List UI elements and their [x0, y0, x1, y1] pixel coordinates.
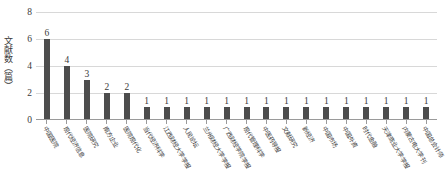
bar[interactable] [144, 107, 150, 121]
bar-value-label: 1 [184, 96, 189, 106]
y-axis-tick-2: 2 [27, 88, 32, 98]
category-slot: 江西财经大学学报 [157, 124, 177, 189]
bar-slot: 1 [376, 12, 396, 120]
y-axis-title: 文献数（篇） [1, 8, 15, 118]
category-slot: 文献研究 [276, 124, 296, 189]
category-slot: 广西财经学院学报 [217, 124, 237, 189]
bar-slot: 1 [356, 12, 376, 120]
bar-slot: 6 [37, 12, 57, 120]
bar[interactable] [363, 107, 369, 121]
bar-value-label: 1 [424, 96, 429, 106]
bar-value-label: 3 [85, 69, 90, 79]
y-axis-tick-labels: 02468 [14, 0, 34, 124]
y-axis-tick-8: 8 [27, 7, 32, 17]
bar[interactable] [244, 107, 250, 121]
category-label: 中国总会计师 [420, 125, 444, 159]
bar[interactable] [64, 66, 70, 120]
category-slot: 兰州财经大学学报 [197, 124, 217, 189]
bar-value-label: 1 [244, 96, 249, 106]
bar-slot: 1 [137, 12, 157, 120]
category-slot: 医院现代化 [117, 124, 137, 189]
category-slot: 内蒙古电大学刊 [396, 124, 416, 189]
bar-value-label: 4 [65, 55, 70, 65]
bar[interactable] [323, 107, 329, 121]
category-label: 新经济 [301, 125, 316, 144]
bar-value-label: 1 [164, 96, 169, 106]
x-axis-category-labels: 中国医院现代经济信息医院研究南方企业医院现代化当代经济科学江西财经大学学报人民论… [36, 124, 437, 189]
bar-value-label: 1 [304, 96, 309, 106]
bar-value-label: 6 [45, 28, 50, 38]
bar-slot: 1 [316, 12, 336, 120]
bar[interactable] [303, 107, 309, 121]
bar[interactable] [423, 107, 429, 121]
category-slot: 天津商业大学学报 [376, 124, 396, 189]
bar-slot: 1 [157, 12, 177, 120]
bar[interactable] [104, 93, 110, 120]
bar[interactable] [204, 107, 210, 121]
y-axis-tick-4: 4 [27, 61, 32, 71]
bar[interactable] [263, 107, 269, 121]
bar-slot: 1 [396, 12, 416, 120]
category-slot: 中国总会计师 [416, 124, 436, 189]
category-slot: 中国医院 [37, 124, 57, 189]
bar-value-label: 2 [124, 82, 129, 92]
bar-slot: 1 [197, 12, 217, 120]
bar-value-label: 1 [144, 96, 149, 106]
bar-slot: 4 [57, 12, 77, 120]
bar-slot: 1 [416, 12, 436, 120]
bar-value-label: 1 [404, 96, 409, 106]
category-slot: 人民论坛 [177, 124, 197, 189]
bar[interactable] [343, 107, 349, 121]
category-slot: 现代管理科学 [237, 124, 257, 189]
bar-value-label: 1 [384, 96, 389, 106]
bar-value-label: 1 [204, 96, 209, 106]
plot-area: 64322111111111111111 [36, 12, 437, 120]
bar-slot: 1 [177, 12, 197, 120]
category-slot: 当代经济科学 [137, 124, 157, 189]
bar[interactable] [403, 107, 409, 121]
category-slot: 医院研究 [77, 124, 97, 189]
bar-slot: 1 [256, 12, 276, 120]
bar-slot: 1 [296, 12, 316, 120]
category-slot: 中国外资 [336, 124, 356, 189]
bar-value-label: 2 [104, 82, 109, 92]
bar[interactable] [383, 107, 389, 121]
bar[interactable] [184, 107, 190, 121]
bar-slot: 2 [97, 12, 117, 120]
bar-value-label: 1 [324, 96, 329, 106]
bar-value-label: 1 [264, 96, 269, 106]
category-slot: 时代金融 [356, 124, 376, 189]
bar-value-label: 1 [344, 96, 349, 106]
category-slot: 中国市场 [316, 124, 336, 189]
bar-series: 64322111111111111111 [36, 12, 437, 120]
bar-slot: 1 [276, 12, 296, 120]
y-axis-tick-6: 6 [27, 34, 32, 44]
bar[interactable] [84, 80, 90, 121]
bar-slot: 3 [77, 12, 97, 120]
bar[interactable] [44, 39, 50, 120]
category-slot: 新经济 [296, 124, 316, 189]
bar-slot: 2 [117, 12, 137, 120]
category-slot: 中医药导报 [256, 124, 276, 189]
bar-value-label: 1 [284, 96, 289, 106]
category-slot: 南方企业 [97, 124, 117, 189]
bar-slot: 1 [237, 12, 257, 120]
bar[interactable] [283, 107, 289, 121]
y-axis-tick-0: 0 [27, 115, 32, 125]
bar-value-label: 1 [224, 96, 229, 106]
category-slot: 现代经济信息 [57, 124, 77, 189]
bar-value-label: 1 [364, 96, 369, 106]
bar-slot: 1 [336, 12, 356, 120]
bar[interactable] [224, 107, 230, 121]
bar[interactable] [164, 107, 170, 121]
bar[interactable] [124, 93, 130, 120]
bar-slot: 1 [217, 12, 237, 120]
